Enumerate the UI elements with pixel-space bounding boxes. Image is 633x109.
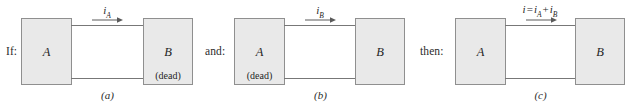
panel-a-wire-top xyxy=(71,25,144,26)
panel-c-block-right-label: B xyxy=(576,44,624,59)
panel-a-block-left: A xyxy=(21,18,72,85)
panel-b-wire-bottom xyxy=(284,78,356,79)
panel-b-block-left: A (dead) xyxy=(234,18,285,85)
panel-a-block-right-dead-label: (dead) xyxy=(144,70,192,81)
panel-b-current-arrow-icon xyxy=(305,16,337,24)
panel-a-wire-bottom xyxy=(71,78,144,79)
panel-b: and: A (dead) iB B (b) xyxy=(205,0,420,109)
panel-a-lead-text: If: xyxy=(6,45,17,57)
panel-a-block-right-label: B xyxy=(144,44,192,59)
panel-c-current-arrow-icon xyxy=(526,16,558,24)
panel-a-current-arrow-icon xyxy=(92,16,124,24)
panel-c-wire-top xyxy=(505,25,576,26)
panel-b-block-left-dead-label: (dead) xyxy=(235,70,284,81)
panel-b-lead-text: and: xyxy=(205,45,225,57)
superposition-figure: If: A iA B (dead) (a) and: A (dead) iB xyxy=(0,0,633,109)
panel-b-wire-top xyxy=(284,25,356,26)
panel-b-block-right-label: B xyxy=(356,44,404,59)
panel-c-caption: (c) xyxy=(513,89,568,101)
panel-a-block-left-label: A xyxy=(22,44,71,59)
panel-b-block-left-label: A xyxy=(235,44,284,59)
panel-a-block-right: B (dead) xyxy=(143,18,193,85)
panel-c-block-left: A xyxy=(455,18,506,85)
panel-c-current-plus: + xyxy=(542,3,550,15)
panel-c: then: A i=iA+iB B (c) xyxy=(418,0,633,109)
panel-c-block-left-label: A xyxy=(456,44,505,59)
panel-a: If: A iA B (dead) (a) xyxy=(0,0,213,109)
panel-a-caption: (a) xyxy=(80,89,135,101)
panel-b-block-right: B xyxy=(355,18,405,85)
panel-c-lead-text: then: xyxy=(420,45,444,57)
panel-c-wire-bottom xyxy=(505,78,576,79)
panel-c-block-right: B xyxy=(575,18,625,85)
panel-b-caption: (b) xyxy=(293,89,348,101)
panel-c-current-equals: = xyxy=(526,3,534,15)
